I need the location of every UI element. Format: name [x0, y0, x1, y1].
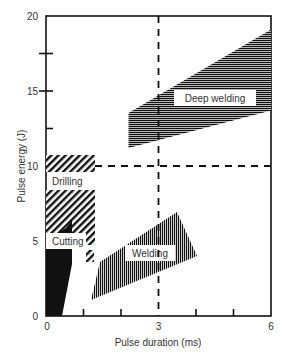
region-drilling-upper [46, 155, 95, 172]
y-tick-15: 15 [27, 86, 39, 97]
region-deep-welding [129, 30, 272, 149]
region-drilling-fragment [86, 250, 94, 262]
drilling-label: Drilling [52, 176, 83, 187]
y-tick-5: 5 [32, 236, 38, 247]
x-axis-ticks [84, 309, 234, 316]
y-axis-title: Pulse energy (J) [16, 130, 27, 203]
x-tick-3: 3 [156, 321, 162, 332]
y-tick-10: 10 [27, 161, 39, 172]
x-tick-0: 0 [44, 321, 50, 332]
x-axis-title: Pulse duration (ms) [115, 337, 202, 348]
cutting-label: Cutting [52, 236, 84, 247]
y-tick-20: 20 [27, 11, 39, 22]
deep-welding-label: Deep welding [185, 93, 246, 104]
y-tick-0: 0 [32, 311, 38, 322]
welding-label: Welding [132, 248, 168, 259]
process-map-chart: Deep welding Drilling Cutting Welding 0 … [0, 0, 284, 359]
x-tick-6: 6 [268, 321, 274, 332]
